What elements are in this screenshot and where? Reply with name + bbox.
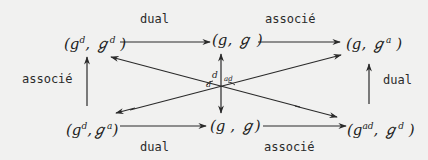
node-top-middle: (g, ℊ ) (212, 32, 263, 48)
edge-label-right-vertical-dual: dual (383, 74, 412, 87)
arrow-diagonal-to-bottom-right (295, 106, 337, 117)
node-bottom-right: (gad, ℊd ) (347, 118, 415, 138)
center-label-sub: ad (224, 75, 233, 83)
center-label-d: d (212, 70, 218, 80)
edge-label-top-right-associe: associé (265, 13, 316, 26)
paren-close: ) (120, 35, 126, 53)
commutative-diagram: (gd, ℊd ) (g, ℊ ) (g, ℊa ) (gd,ℊa) (g , … (0, 0, 428, 160)
paren-close: ) (112, 121, 118, 139)
paren-close: ) (257, 31, 263, 49)
superscript: d (110, 35, 116, 45)
edge-label-left-vertical-associe: associé (22, 73, 73, 86)
node-bottom-left: (gd,ℊa) (66, 118, 118, 138)
arrow-diagonal-to-bottom-left (116, 108, 135, 113)
symbol-frak-g: ℊ (383, 121, 398, 139)
node-top-left: (gd, ℊd ) (64, 32, 126, 52)
separator: , (85, 35, 90, 53)
superscript: d (398, 121, 404, 131)
paren-close: ) (255, 117, 261, 135)
node-bottom-middle: (g , ℊ) (210, 118, 261, 134)
symbol-frak-g: ℊ (371, 35, 386, 53)
symbol-frak-g: ℊ (237, 31, 252, 49)
symbol-frak-g: ℊ (95, 35, 110, 53)
separator: , (374, 121, 379, 139)
edge-label-bottom-left-dual: dual (140, 141, 169, 154)
separator: , (361, 35, 366, 53)
symbol-frak-g: ℊ (92, 121, 107, 139)
superscript: ad (362, 121, 373, 131)
symbol-frak-g: ℊ (240, 117, 255, 135)
center-label-left: d (206, 80, 211, 89)
separator: , (227, 31, 232, 49)
node-top-right: (g, ℊa ) (346, 32, 402, 52)
edge-label-bottom-right-associe: associé (264, 141, 315, 154)
paren-close: ) (396, 35, 402, 53)
paren-close: ) (409, 121, 415, 139)
edge-label-top-left-dual: dual (140, 13, 169, 26)
arrow-diagonal-to-top-right (130, 55, 341, 110)
center-label-main: d (212, 70, 218, 80)
symbol-g: g (216, 117, 226, 135)
superscript: a (386, 35, 391, 45)
separator: , (230, 117, 235, 135)
